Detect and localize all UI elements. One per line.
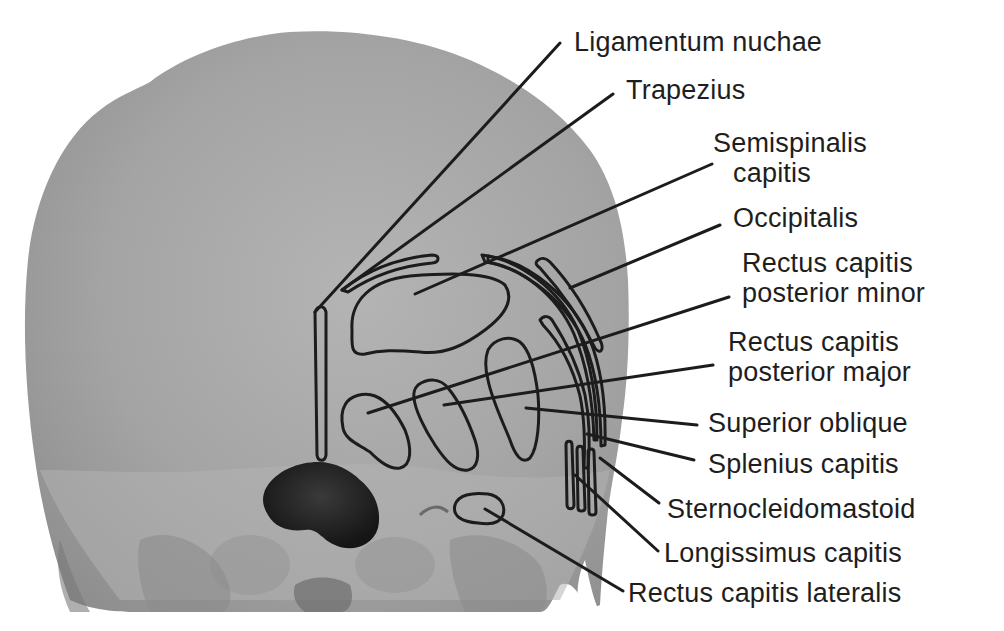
label-longissimus-capitis: Longissimus capitis	[664, 538, 902, 568]
label-splenius-capitis: Splenius capitis	[708, 449, 899, 479]
label-occipitalis: Occipitalis	[733, 203, 858, 233]
label-semispinalis-capitis: Semispinalis capitis	[713, 128, 867, 188]
label-ligamentum-nuchae: Ligamentum nuchae	[574, 27, 822, 57]
label-rectus-capitis-posterior-major: Rectus capitis posterior major	[728, 327, 911, 387]
label-superior-oblique: Superior oblique	[708, 408, 908, 438]
label-rectus-capitis-posterior-minor: Rectus capitis posterior minor	[742, 248, 925, 308]
label-sternocleidomastoid: Sternocleidomastoid	[667, 494, 915, 524]
skull-illustration	[0, 0, 1004, 631]
label-rectus-capitis-lateralis: Rectus capitis lateralis	[628, 578, 901, 608]
anatomy-figure: Ligamentum nuchae Trapezius Semispinalis…	[0, 0, 1004, 631]
label-trapezius: Trapezius	[626, 75, 745, 105]
